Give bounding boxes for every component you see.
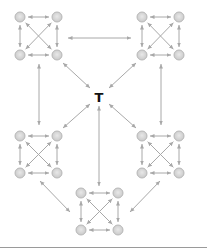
node-circle bbox=[137, 131, 147, 141]
node-circle bbox=[52, 50, 62, 60]
edge-arrow-top-left-to-t bbox=[63, 63, 90, 88]
node-circle bbox=[52, 168, 62, 178]
node-circle bbox=[113, 188, 123, 198]
cluster-top-left bbox=[15, 12, 62, 60]
edge-arrow-middle-right-to-bottom bbox=[130, 181, 160, 212]
network-diagram: T bbox=[0, 0, 207, 252]
node-circle bbox=[137, 50, 147, 60]
node-circle bbox=[15, 12, 25, 22]
node-circle bbox=[15, 50, 25, 60]
edge-arrow-top-right-to-t bbox=[109, 63, 136, 88]
node-circle bbox=[174, 50, 184, 60]
node-circle bbox=[52, 12, 62, 22]
center-node-label: T bbox=[95, 90, 104, 105]
node-circle bbox=[113, 225, 123, 235]
edge-arrow-middle-left-to-bottom bbox=[40, 181, 70, 212]
edge-arrow-middle-left-to-t bbox=[63, 104, 90, 128]
cluster-bottom bbox=[76, 188, 123, 235]
inter-cluster-edges bbox=[39, 38, 161, 212]
node-circle bbox=[174, 168, 184, 178]
cluster-top-right bbox=[137, 12, 184, 60]
edge-arrow-middle-right-to-t bbox=[109, 104, 136, 128]
node-circle bbox=[52, 131, 62, 141]
node-circle bbox=[76, 188, 86, 198]
node-circle bbox=[174, 131, 184, 141]
node-circle bbox=[76, 225, 86, 235]
cluster-middle-left bbox=[15, 131, 62, 178]
node-circle bbox=[137, 12, 147, 22]
node-circle bbox=[137, 168, 147, 178]
cluster-middle-right bbox=[137, 131, 184, 178]
node-circle bbox=[15, 131, 25, 141]
node-circle bbox=[15, 168, 25, 178]
node-circle bbox=[174, 12, 184, 22]
bottom-divider bbox=[0, 247, 207, 248]
